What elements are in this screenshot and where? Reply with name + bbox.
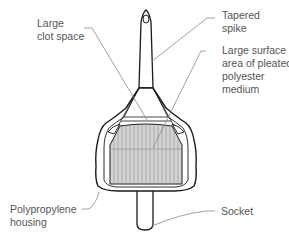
leader-tapered-spike (151, 18, 215, 62)
label-clot-space: Large clot space (37, 17, 84, 43)
label-line: Tapered (222, 9, 260, 22)
label-line: Polypropylene (10, 203, 77, 216)
label-pleated-medium: Large surface area of pleated polyester … (222, 44, 289, 96)
tapered-spike-shape (139, 10, 153, 88)
label-line: Socket (221, 205, 253, 218)
label-line: area of pleated (222, 57, 289, 70)
pleated-medium-shape (110, 123, 182, 184)
leader-housing (82, 192, 99, 209)
label-line: housing (10, 216, 77, 229)
label-line: Large (37, 17, 84, 30)
label-line: spike (222, 22, 260, 35)
label-line: polyester (222, 70, 289, 83)
label-line: medium (222, 83, 289, 96)
label-tapered-spike: Tapered spike (222, 9, 260, 35)
label-socket: Socket (221, 205, 253, 218)
label-line: clot space (37, 30, 84, 43)
label-line: Large surface (222, 44, 289, 57)
leader-socket (152, 211, 215, 226)
socket-shape (137, 190, 153, 230)
label-housing: Polypropylene housing (10, 203, 77, 229)
